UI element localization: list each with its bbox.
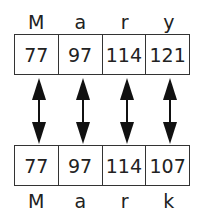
double-arrow-icon xyxy=(120,78,134,144)
bottom-code-cell: 114 xyxy=(103,146,147,185)
bottom-letter: a xyxy=(58,191,102,211)
bottom-letters: M a r k xyxy=(14,191,191,211)
bottom-code-cell: 77 xyxy=(15,146,59,185)
bottom-letter: k xyxy=(147,191,191,211)
double-arrows xyxy=(0,0,202,222)
double-arrow-icon xyxy=(32,78,46,144)
double-arrow-icon xyxy=(76,78,90,144)
double-arrow-icon xyxy=(163,78,177,144)
bottom-letter: M xyxy=(14,191,58,211)
bottom-letter: r xyxy=(103,191,147,211)
bottom-code-cell: 107 xyxy=(146,146,189,185)
bottom-code-row: 77 97 114 107 xyxy=(14,145,190,186)
bottom-code-cell: 97 xyxy=(59,146,103,185)
